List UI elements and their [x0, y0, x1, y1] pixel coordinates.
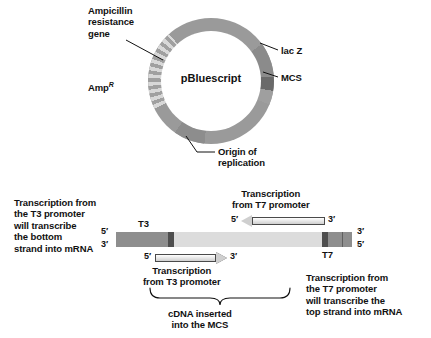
dna-construct-bar [116, 232, 352, 247]
caption-t7-top-strand: Transcription from the T7 promoter will … [306, 272, 402, 318]
caption-t7-transcription: Transcription from T7 promoter [232, 188, 310, 211]
label-t3-promoter: T3 [138, 218, 149, 229]
strand-end-left-bottom: 3′ [101, 239, 108, 249]
label-amp-r-text: Amp [88, 82, 109, 93]
bar-segment-left-flank [116, 232, 168, 247]
label-origin-of-replication: Origin of replication [218, 146, 265, 169]
figure-canvas: pBluescript Ampicillin resistance gene A… [0, 0, 431, 338]
t3-arrow-end-label: 3′ [230, 251, 237, 261]
t3-transcription-arrow [155, 254, 227, 262]
t7-transcription-arrow [241, 217, 325, 225]
t7-arrow-end-label: 3′ [328, 214, 335, 224]
bar-divider-right [342, 232, 343, 247]
label-ampicillin-resistance-gene: Ampicillin resistance gene [88, 5, 134, 39]
caption-t3-bottom-strand: Transcription from the T3 promoter will … [14, 197, 96, 254]
t7-arrow-head [241, 215, 252, 227]
label-mcs: MCS [281, 72, 302, 83]
caption-cdna-insert: cDNA inserted into the MCS [168, 308, 232, 331]
strand-end-right-top: 3′ [357, 226, 364, 236]
label-amp-r: AmpR [88, 79, 114, 94]
strand-end-left-top: 5′ [101, 226, 108, 236]
caption-t3-transcription: Transcription from T3 promoter [143, 265, 221, 288]
plasmid-name-label: pBluescript [148, 72, 274, 84]
label-t7-promoter: T7 [322, 249, 333, 260]
brace-cdna-region [150, 288, 290, 305]
bar-cdna-insert [174, 232, 322, 247]
plasmid-map: pBluescript [148, 18, 274, 144]
t3-arrow-shaft [155, 254, 216, 262]
t7-arrow-start-label: 5′ [231, 214, 238, 224]
t3-arrow-head [216, 252, 227, 264]
label-lacz: lac Z [281, 45, 302, 56]
bar-segment-right-flank [328, 232, 352, 247]
t7-arrow-shaft [252, 217, 325, 225]
t3-arrow-start-label: 5′ [144, 251, 151, 261]
strand-end-right-bottom: 5′ [357, 239, 364, 249]
label-amp-r-superscript: R [109, 81, 114, 88]
